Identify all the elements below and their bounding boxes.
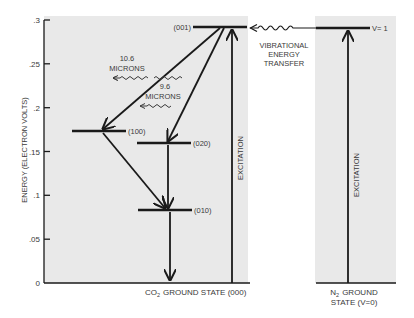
level-label: (010) bbox=[194, 206, 212, 215]
co2-n2-laser-energy-diagram: .3 .25 .2 .15 .1 .05 0 ENERGY (ELECTRON … bbox=[0, 0, 414, 318]
emission-unit: MICRONS bbox=[145, 92, 180, 101]
emission-wavelength: 9.6 bbox=[160, 82, 170, 91]
tick-label: 0 bbox=[36, 279, 41, 288]
n2-ground-state-label-line1: N2GROUND bbox=[330, 288, 378, 298]
n2-ground-state-label-line2: STATE (V=0) bbox=[331, 298, 378, 307]
co2-ground-state-label: CO2GROUND STATE (000) bbox=[145, 288, 247, 298]
tick-label: .25 bbox=[29, 60, 41, 69]
co2-formula: CO bbox=[145, 288, 157, 297]
co2-excitation-label: EXCITATION bbox=[236, 136, 245, 180]
n2-excitation-label: EXCITATION bbox=[352, 153, 361, 197]
tick-label: .15 bbox=[29, 148, 41, 157]
co2-subscript: 2 bbox=[157, 292, 160, 298]
emission-wavelength: 10.6 bbox=[120, 54, 135, 63]
transfer-label-line1: VIBRATIONAL bbox=[259, 41, 308, 50]
co2-ground-text: GROUND STATE (000) bbox=[163, 288, 247, 297]
axis-title: ENERGY (ELECTRON VOLTS) bbox=[20, 97, 29, 203]
n2-ground-text: GROUND bbox=[342, 288, 378, 297]
tick-label: .2 bbox=[33, 104, 40, 113]
tick-label: .3 bbox=[33, 16, 40, 25]
emission-unit: MICRONS bbox=[109, 64, 144, 73]
level-label: (001) bbox=[173, 23, 191, 32]
n2-level-label: V= 1 bbox=[372, 24, 388, 33]
energy-transfer-wave-icon bbox=[250, 26, 316, 30]
transfer-label-line2: ENERGY bbox=[268, 50, 300, 59]
transfer-label-line3: TRANSFER bbox=[264, 59, 305, 68]
co2-panel bbox=[44, 16, 248, 283]
n2-panel bbox=[315, 16, 396, 283]
tick-label: .05 bbox=[29, 235, 41, 244]
tick-label: .1 bbox=[33, 191, 40, 200]
level-label: (020) bbox=[193, 139, 211, 148]
level-label: (100) bbox=[128, 127, 146, 136]
